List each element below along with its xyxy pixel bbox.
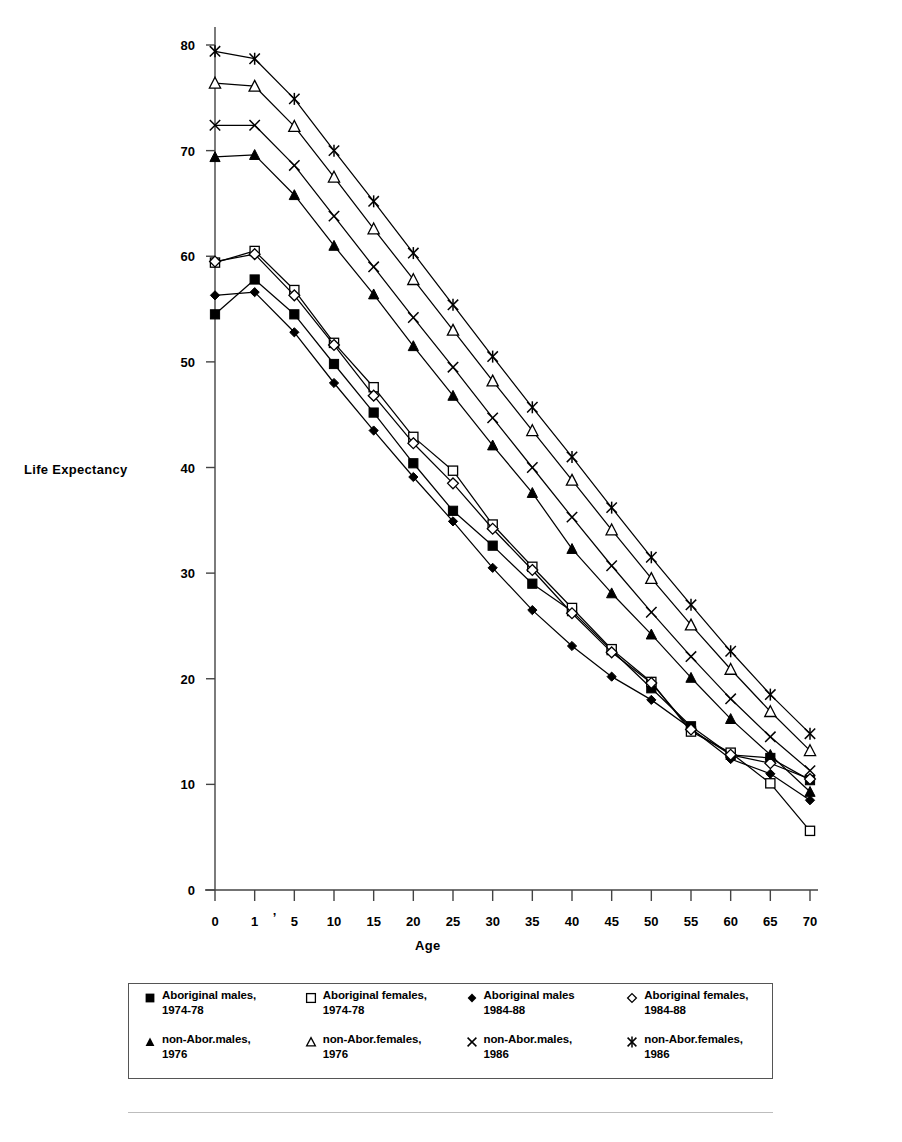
x-axis-tick-label: 60 [723,914,737,929]
x-axis-tick-label: 30 [485,914,499,929]
legend-marker-open-diamond [625,991,639,1005]
legend-item-label: Aboriginal females, 1984-88 [644,988,748,1017]
legend-item[interactable]: non-Abor.males, 1976 [129,1032,290,1080]
x-axis-tick-label: 70 [803,914,817,929]
y-axis-tick-label: 30 [181,566,195,581]
y-axis-tick-label: 80 [181,38,195,53]
x-cross-icon [465,1035,479,1049]
legend-item[interactable]: non-Abor.females, 1976 [290,1032,451,1080]
data-point-marker [408,312,418,322]
legend-row: non-Abor.males, 1976non-Abor.females, 19… [129,1032,772,1080]
data-point-marker [209,77,220,88]
data-point-marker [725,694,735,704]
x-axis-tick-label: 25 [446,914,460,929]
data-point-marker [725,645,735,657]
y-axis-tick-label: 60 [181,249,195,264]
legend-item[interactable]: Aboriginal females, 1984-88 [611,988,772,1036]
data-point-marker [567,512,577,522]
data-point-marker [329,145,339,157]
star-cross-icon [625,1035,639,1049]
line-chart-plot: 0102030405060708001510152025303540455055… [0,0,902,1142]
y-axis-tick-label: 40 [181,461,195,476]
x-axis-tick-label: 1 [251,914,258,929]
legend-item-label: Aboriginal males, 1974-78 [162,988,256,1017]
data-point-marker [527,401,537,413]
series-line [215,279,810,780]
data-point-marker [527,462,537,472]
x-axis-tick-label: 5 [291,914,298,929]
y-axis-tick-label: 10 [181,777,195,792]
data-point-marker [606,502,616,514]
y-axis-tick-label: 20 [181,672,195,687]
data-point-marker [805,796,814,805]
x-axis-tick-label: 45 [604,914,618,929]
series-line [215,51,810,733]
data-point-marker [805,728,815,740]
legend-marker-x-cross [465,1035,479,1049]
chart-legend: Aboriginal males, 1974-78Aboriginal fema… [128,983,773,1079]
data-point-marker [567,544,577,554]
legend-item-label: non-Abor.females, 1986 [644,1032,743,1061]
series-line [215,254,810,779]
y-axis-tick-label: 70 [181,144,195,159]
data-point-marker [210,45,220,57]
data-point-marker [210,310,219,319]
legend-marker-star-cross [625,1035,639,1049]
legend-item[interactable]: non-Abor.females, 1986 [611,1032,772,1080]
data-point-marker [448,506,457,515]
data-point-marker [289,160,299,170]
open-triangle-icon [304,1035,318,1049]
data-point-marker [329,359,338,368]
x-axis-tick-label: 10 [327,914,341,929]
x-axis-stray-mark: ’ [273,910,277,925]
data-point-marker [567,451,577,463]
data-point-marker [647,695,656,704]
filled-triangle-icon [143,1035,157,1049]
series-line [215,125,810,770]
filled-square-icon [143,991,157,1005]
series-1 [210,246,814,835]
data-point-marker [249,53,259,65]
data-point-marker [488,541,497,550]
legend-item[interactable]: non-Abor.males, 1986 [451,1032,612,1080]
x-axis-tick-label: 35 [525,914,539,929]
y-axis-title: Life Expectancy [24,462,128,477]
legend-item-label: non-Abor.males, 1986 [484,1032,573,1061]
x-axis-tick-label: 50 [644,914,658,929]
data-point-marker [448,299,458,311]
data-point-marker [766,779,775,788]
legend-item[interactable]: Aboriginal females, 1974-78 [290,988,451,1036]
data-point-marker [289,93,299,105]
legend-row: Aboriginal males, 1974-78Aboriginal fema… [129,988,772,1036]
legend-marker-filled-triangle [143,1035,157,1049]
data-point-marker [369,408,378,417]
legend-marker-open-triangle [304,1035,318,1049]
legend-item[interactable]: Aboriginal males 1984-88 [451,988,612,1036]
data-point-marker [448,362,458,372]
x-axis-tick-label: 15 [366,914,380,929]
series-6 [210,120,815,776]
page-bottom-rule [128,1112,773,1113]
data-point-marker [368,262,378,272]
x-axis-tick-label: 55 [684,914,698,929]
data-point-marker [765,689,775,701]
series-line [215,251,810,831]
data-point-marker [646,607,656,617]
x-axis-tick-label: 0 [211,914,218,929]
data-point-marker [765,732,775,742]
open-square-icon [304,991,318,1005]
filled-diamond-icon [465,991,479,1005]
legend-item-label: non-Abor.females, 1976 [323,1032,422,1061]
legend-item[interactable]: Aboriginal males, 1974-78 [129,988,290,1036]
y-axis-tick-label: 50 [181,355,195,370]
data-point-marker [448,466,457,475]
data-point-marker [408,247,418,259]
data-point-marker [766,769,775,778]
chart-figure: 0102030405060708001510152025303540455055… [0,0,902,1142]
x-axis-title: Age [415,938,440,953]
x-axis-tick-label: 65 [763,914,777,929]
data-point-marker [646,551,656,563]
series-line [215,83,810,751]
data-point-marker [250,275,259,284]
data-point-marker [487,351,497,363]
